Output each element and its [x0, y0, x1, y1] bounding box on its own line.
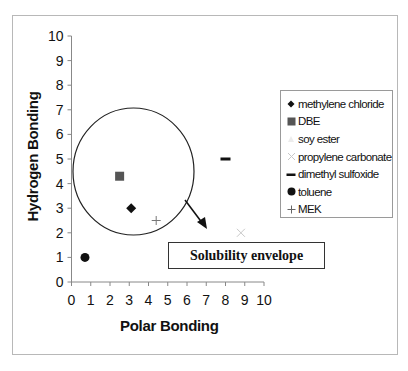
legend-item-dbe: DBE [286, 113, 392, 131]
legend-item-mek: MEK [286, 201, 392, 219]
x-tick-label: 2 [106, 292, 114, 308]
legend-label: methylene chloride [298, 98, 384, 110]
legend-label: propylene carbonate [298, 151, 391, 163]
x-tick-label: 5 [164, 292, 172, 308]
x-tick-label: 1 [87, 292, 95, 308]
MEK-point [152, 216, 161, 225]
legend-item-dimethyl-sulfoxide: dimethyl sulfoxide [286, 165, 392, 183]
legend: methylene chloride DBE soy ester propyle… [280, 90, 393, 218]
x-tick-label: 7 [202, 292, 210, 308]
x-tick-label: 3 [125, 292, 133, 308]
legend-item-soy-ester: soy ester [286, 130, 392, 148]
triangle-icon [286, 134, 296, 144]
solubility-envelope-ellipse [73, 108, 194, 235]
legend-item-toluene: toluene [286, 183, 392, 201]
y-tick-label: 5 [56, 151, 64, 167]
diamond-icon [286, 99, 296, 109]
solubility-envelope-callout: Solubility envelope [168, 242, 325, 269]
y-axis-ticks: 012345678910 [48, 28, 72, 290]
plus-icon [286, 204, 296, 214]
x-tick-label: 9 [241, 292, 249, 308]
legend-label: soy ester [298, 133, 339, 145]
y-tick-label: 1 [56, 249, 64, 265]
y-tick-label: 8 [56, 77, 64, 93]
dimethyl-sulfoxide-point [221, 158, 231, 161]
toluene-point [80, 253, 89, 262]
dash-icon [286, 169, 296, 179]
x-tick-label: 8 [222, 292, 230, 308]
legend-label: dimethyl sulfoxide [298, 168, 379, 180]
x-tick-label: 0 [68, 292, 76, 308]
legend-label: toluene [298, 186, 332, 198]
y-tick-label: 6 [56, 126, 64, 142]
y-tick-label: 4 [56, 176, 64, 192]
x-tick-label: 6 [183, 292, 191, 308]
x-tick-label: 10 [256, 292, 272, 308]
legend-label: MEK [298, 203, 321, 215]
DBE-point [115, 172, 124, 181]
methylene-chloride-point [126, 203, 136, 213]
y-tick-label: 0 [56, 274, 64, 290]
x-axis-title: Polar Bonding [120, 317, 219, 334]
y-tick-label: 3 [56, 200, 64, 216]
y-tick-label: 10 [48, 28, 64, 44]
legend-item-propylene-carbonate: propylene carbonate [286, 148, 392, 166]
y-tick-label: 9 [56, 53, 64, 69]
x-icon [286, 152, 296, 162]
square-icon [286, 116, 296, 126]
y-tick-label: 2 [56, 225, 64, 241]
x-axis-ticks: 012345678910 [68, 282, 272, 308]
y-axis-title: Hydrogen Bonding [24, 87, 41, 227]
legend-item-methylene-chloride: methylene chloride [286, 95, 392, 113]
y-tick-label: 7 [56, 102, 64, 118]
legend-label: DBE [298, 115, 320, 127]
x-tick-label: 4 [145, 292, 153, 308]
circle-icon [286, 187, 296, 197]
propylene-carbonate-point [237, 229, 245, 237]
